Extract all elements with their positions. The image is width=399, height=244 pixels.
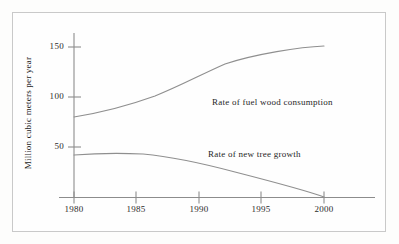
y-tick-label-50: 50 — [36, 141, 64, 151]
x-tick-label-1990: 1990 — [181, 204, 217, 214]
series-annotation-new-tree-growth: Rate of new tree growth — [208, 149, 301, 159]
series-line-new-tree-growth — [74, 153, 324, 197]
y-tick-label-100: 100 — [36, 91, 64, 101]
y-tick-label-150: 150 — [36, 41, 64, 51]
x-tick-label-1980: 1980 — [56, 204, 92, 214]
x-tick-label-1995: 1995 — [243, 204, 279, 214]
series-annotation-fuel-wood-consumption: Rate of fuel wood consumption — [212, 97, 333, 107]
y-axis-title: Million cubic meters per year — [23, 37, 33, 189]
x-tick-label-1985: 1985 — [118, 204, 154, 214]
x-tick-label-2000: 2000 — [306, 204, 342, 214]
chart-page: 150 100 50 1980 1985 1990 1995 2000 Mill… — [0, 0, 399, 244]
